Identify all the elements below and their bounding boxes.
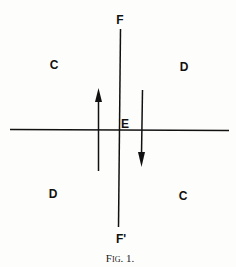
label-e: E bbox=[121, 117, 129, 131]
horizontal-axis bbox=[10, 130, 229, 131]
label-d-upper-right: D bbox=[180, 60, 189, 74]
down-arrow bbox=[138, 90, 145, 167]
label-c-lower-right: C bbox=[179, 189, 188, 203]
figure-diagram: F E C D D C F' Fig. 1. bbox=[0, 0, 236, 267]
figure-caption: Fig. 1. bbox=[106, 252, 135, 264]
label-c-upper-left: C bbox=[50, 58, 59, 72]
label-f: F bbox=[116, 13, 123, 27]
label-d-lower-left: D bbox=[49, 187, 58, 201]
label-f-prime: F' bbox=[116, 232, 126, 246]
